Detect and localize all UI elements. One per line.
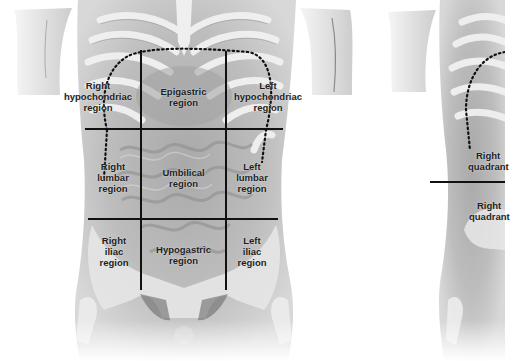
region-label-right-iliac: Right iliac region	[88, 235, 140, 268]
right-figure	[388, 0, 505, 361]
region-label-right-lower-quadrant: Right quadrant	[469, 200, 515, 222]
region-label-right-hypochondriac: Right hypochondriac region	[60, 80, 136, 113]
region-label-umbilical: Umbilical region	[143, 167, 224, 189]
region-label-right-upper-quadrant: Right quadrant	[468, 150, 515, 172]
region-label-left-hypochondriac: Left hypochondriac region	[229, 80, 307, 113]
region-label-right-lumbar: Right lumbar region	[86, 161, 140, 194]
region-label-hypogastric: Hypogastric region	[143, 244, 224, 266]
region-label-left-lumbar: Left lumbar region	[226, 161, 278, 194]
region-label-left-iliac: Left iliac region	[226, 235, 278, 268]
region-label-epigastric: Epigastric region	[143, 86, 224, 108]
